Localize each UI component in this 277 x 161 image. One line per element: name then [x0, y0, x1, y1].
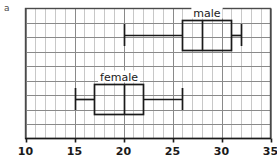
boxplot-figure: a 101520253035 malefemale — [0, 0, 277, 161]
x-axis-tick-labels: 101520253035 — [18, 145, 277, 158]
boxplot-svg: 101520253035 malefemale — [0, 0, 277, 161]
boxplot-series-group — [76, 21, 242, 115]
major-gridlines — [27, 9, 272, 139]
x-tick-label: 10 — [18, 145, 34, 158]
series-label-female: female — [100, 71, 138, 84]
series-label-male: male — [193, 7, 221, 20]
box-iqr — [183, 21, 232, 51]
boxplot-male — [125, 21, 242, 51]
x-tick-label: 30 — [214, 145, 230, 158]
x-tick-label: 35 — [263, 145, 277, 158]
series-labels-group: malefemale — [98, 7, 223, 84]
x-tick-label: 25 — [165, 145, 180, 158]
horizontal-gridlines — [26, 24, 271, 125]
x-tick-label: 15 — [67, 145, 82, 158]
minor-gridlines — [36, 9, 262, 139]
frame-rect — [26, 9, 271, 139]
x-axis — [25, 139, 272, 143]
x-tick-label: 20 — [116, 145, 132, 158]
plot-frame — [26, 9, 271, 139]
